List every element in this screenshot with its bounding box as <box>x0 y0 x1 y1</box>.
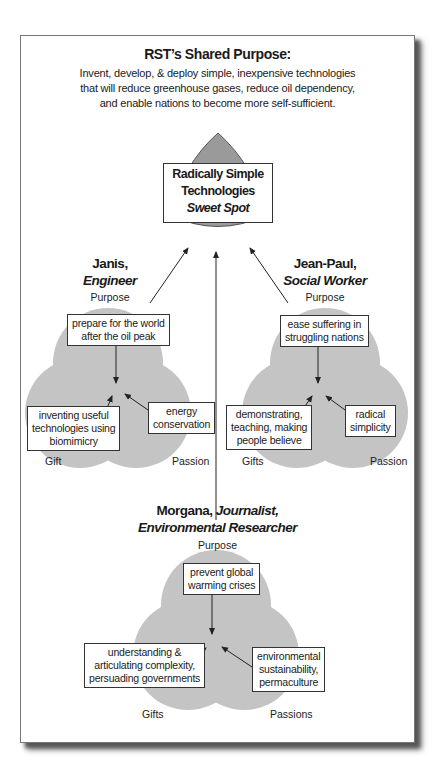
box-line: understanding & <box>89 646 200 659</box>
box-line: inventing useful <box>32 409 115 422</box>
janis-purpose-label: Purpose <box>70 291 150 303</box>
jeanpaul-purpose-label: Purpose <box>270 291 380 303</box>
box-line: ease suffering in <box>285 318 364 331</box>
morgana-title: Morgana, Journalist, Environmental Resea… <box>0 502 435 536</box>
box-line: after the oil peak <box>72 330 165 343</box>
jeanpaul-title: Jean-Paul, Social Worker <box>270 255 380 289</box>
person-role: Journalist, <box>216 503 279 518</box>
box-line: persuading governments <box>89 672 200 685</box>
janis-purpose-box: prepare for the world after the oil peak <box>67 314 170 346</box>
box-line: sustainability, <box>257 663 320 676</box>
box-line: prevent global <box>188 566 255 579</box>
box-line: simplicity <box>350 421 391 434</box>
jeanpaul-passion-label: Passion <box>370 455 407 467</box>
sweet-spot-line: Sweet Spot <box>164 200 272 217</box>
box-line: demonstrating, <box>231 408 307 421</box>
jeanpaul-passion-box: radical simplicity <box>345 405 396 437</box>
shared-purpose-text: Invent, develop, & deploy simple, inexpe… <box>0 66 435 111</box>
box-line: biomimicry <box>32 435 115 448</box>
jeanpaul-gift-label: Gifts <box>242 455 264 467</box>
box-line: energy <box>153 405 210 418</box>
shared-purpose-title: RST’s Shared Purpose: <box>0 46 435 62</box>
janis-passion-label: Passion <box>172 455 209 467</box>
sweet-spot-label: Radically Simple Technologies Sweet Spot <box>163 163 273 223</box>
janis-title: Janis, Engineer <box>70 255 150 289</box>
janis-gift-label: Gift <box>45 455 61 467</box>
box-line: teaching, making <box>231 421 307 434</box>
morgana-passion-box: environmental sustainability, permacultu… <box>252 647 325 692</box>
person-role: Engineer <box>70 272 150 289</box>
morgana-purpose-label: Purpose <box>0 539 435 551</box>
morgana-passion-label: Passions <box>270 708 313 720</box>
subtitle-line: that will reduce greenhouse gases, reduc… <box>0 81 435 96</box>
person-name: Janis, <box>70 255 150 272</box>
janis-gift-box: inventing useful technologies using biom… <box>27 406 120 451</box>
box-line: permaculture <box>257 676 320 689</box>
sweet-spot-line: Radically Simple <box>164 166 272 183</box>
jeanpaul-purpose-box: ease suffering in struggling nations <box>280 315 369 347</box>
person-name: Jean-Paul, <box>270 255 380 272</box>
box-line: environmental <box>257 650 320 663</box>
venn-diagram-graphics <box>0 0 435 773</box>
subtitle-line: Invent, develop, & deploy simple, inexpe… <box>0 66 435 81</box>
box-line: struggling nations <box>285 331 364 344</box>
sweet-spot-line: Technologies <box>164 183 272 200</box>
box-line: warming crises <box>188 579 255 592</box>
person-role: Environmental Researcher <box>0 519 435 536</box>
jeanpaul-gift-box: demonstrating, teaching, making people b… <box>226 405 312 450</box>
box-line: radical <box>350 408 391 421</box>
subtitle-line: and enable nations to become more self-s… <box>0 96 435 111</box>
box-line: conservation <box>153 418 210 431</box>
morgana-purpose-box: prevent global warming crises <box>183 563 260 595</box>
morgana-gift-box: understanding & articulating complexity,… <box>84 643 205 688</box>
person-role: Social Worker <box>270 272 380 289</box>
person-name: Morgana, <box>156 503 212 518</box>
box-line: technologies using <box>32 422 115 435</box>
janis-passion-box: energy conservation <box>148 402 215 434</box>
box-line: people believe <box>231 434 307 447</box>
box-line: articulating complexity, <box>89 659 200 672</box>
box-line: prepare for the world <box>72 317 165 330</box>
morgana-gift-label: Gifts <box>142 708 164 720</box>
